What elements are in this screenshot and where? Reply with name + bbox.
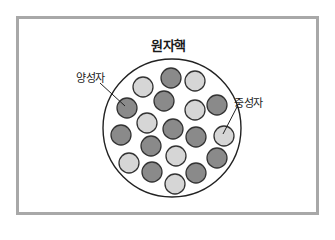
neutron-particle xyxy=(137,113,157,133)
proton-particle xyxy=(163,119,183,139)
neutron-particle xyxy=(214,126,234,146)
neutron-particle xyxy=(119,153,139,173)
proton-particle xyxy=(207,148,227,168)
proton-particle xyxy=(154,91,174,111)
neutron-label: 중성자 xyxy=(234,94,263,110)
neutron-particle xyxy=(185,71,205,91)
proton-particle xyxy=(207,95,227,115)
proton-particle xyxy=(186,127,206,147)
neutron-particle xyxy=(166,146,186,166)
proton-particle xyxy=(186,163,206,183)
proton-label: 양성자 xyxy=(76,69,105,85)
proton-particle xyxy=(111,125,131,145)
proton-particle xyxy=(161,68,181,88)
neutron-particle xyxy=(133,77,153,97)
neutron-particle xyxy=(185,100,205,120)
neutron-particle xyxy=(165,174,185,194)
proton-particle xyxy=(142,162,162,182)
proton-particle xyxy=(141,136,161,156)
diagram-title: 원자핵 xyxy=(151,35,186,54)
